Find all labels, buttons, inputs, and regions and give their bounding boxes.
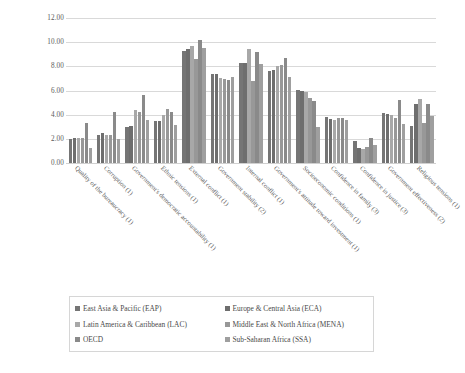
legend-label: OECD	[83, 335, 103, 344]
bar	[186, 49, 189, 163]
bar	[97, 135, 100, 163]
bar	[223, 79, 226, 163]
legend-label: Sub-Saharan Africa (SSA)	[233, 335, 311, 344]
bar	[422, 123, 425, 163]
bar	[329, 119, 332, 163]
legend-swatch-icon	[75, 306, 80, 311]
legend-swatch-icon	[225, 322, 230, 327]
legend-label: East Asia & Pacific (EAP)	[83, 304, 161, 313]
bar	[333, 120, 336, 164]
bar	[101, 133, 104, 163]
bar-group	[294, 18, 322, 163]
bar	[251, 81, 254, 163]
y-tick-label: 8.00	[30, 62, 64, 70]
bar	[341, 118, 344, 163]
bar	[426, 104, 429, 163]
bar	[113, 112, 116, 163]
bar	[231, 77, 234, 163]
bar	[239, 63, 242, 163]
bar-group	[322, 18, 350, 163]
bar	[272, 70, 275, 163]
bar	[146, 120, 149, 163]
legend-swatch-icon	[225, 306, 230, 311]
bar	[117, 139, 120, 163]
bar	[300, 91, 303, 164]
bar	[284, 58, 287, 163]
legend-item[interactable]: East Asia & Pacific (EAP)	[75, 304, 222, 313]
legend-item[interactable]: Europe & Central Asia (ECA)	[222, 304, 369, 313]
bar	[361, 149, 364, 163]
bar	[365, 147, 368, 163]
bar	[202, 48, 205, 163]
bar	[357, 148, 360, 163]
bar	[288, 77, 291, 163]
bar	[353, 141, 356, 163]
bar	[227, 80, 230, 163]
bar	[243, 63, 246, 163]
bar-group	[123, 18, 151, 163]
legend-row: OECDSub-Saharan Africa (SSA)	[75, 332, 368, 348]
y-tick-label: 10.00	[30, 38, 64, 46]
legend-row: East Asia & Pacific (EAP)Europe & Centra…	[75, 301, 368, 317]
bar	[134, 110, 137, 163]
bar	[280, 65, 283, 163]
bar	[304, 92, 307, 163]
legend-item[interactable]: Latin America & Caribbean (LAC)	[75, 320, 222, 329]
bar	[386, 114, 389, 163]
bar-group	[265, 18, 293, 163]
bar-group	[379, 18, 407, 163]
bar-group	[151, 18, 179, 163]
bar	[373, 145, 376, 163]
legend-item[interactable]: Sub-Saharan Africa (SSA)	[222, 335, 369, 344]
bar	[296, 90, 299, 163]
bar	[154, 121, 157, 163]
bar-group	[237, 18, 265, 163]
y-tick-label: 2.00	[30, 135, 64, 143]
bar	[430, 116, 433, 163]
y-tick-label: 12.00	[30, 14, 64, 22]
legend-label: Europe & Central Asia (ECA)	[233, 304, 322, 313]
bar	[255, 52, 258, 163]
legend-row: Latin America & Caribbean (LAC)Middle Ea…	[75, 317, 368, 333]
bar	[85, 123, 88, 163]
legend-swatch-icon	[75, 322, 80, 327]
plot-area	[66, 18, 436, 163]
bar	[394, 118, 397, 163]
y-axis: 12.0010.008.006.004.002.000.00	[30, 0, 64, 175]
bar	[382, 113, 385, 163]
bar	[158, 121, 161, 163]
bar	[182, 51, 185, 163]
bar	[166, 109, 169, 163]
bar-group	[351, 18, 379, 163]
bar	[268, 71, 271, 163]
bar	[198, 40, 201, 163]
bar	[142, 95, 145, 163]
bar	[337, 118, 340, 163]
bar	[81, 138, 84, 163]
bar-group	[408, 18, 436, 163]
legend-swatch-icon	[225, 337, 230, 342]
bar	[73, 138, 76, 163]
bar	[109, 135, 112, 163]
bar	[390, 115, 393, 163]
bar	[129, 126, 132, 163]
bar	[402, 124, 405, 163]
bar	[89, 148, 92, 163]
bar	[77, 138, 80, 163]
bar	[215, 74, 218, 163]
bar	[138, 112, 141, 163]
legend-item[interactable]: OECD	[75, 335, 222, 344]
bar	[308, 98, 311, 163]
bar-group	[94, 18, 122, 163]
bar	[69, 139, 72, 163]
chart-legend: East Asia & Pacific (EAP)Europe & Centra…	[69, 296, 374, 352]
legend-swatch-icon	[75, 337, 80, 342]
bar	[398, 100, 401, 163]
bar	[174, 125, 177, 163]
bar	[125, 127, 128, 163]
bar	[194, 59, 197, 163]
bar	[414, 104, 417, 163]
bar	[211, 74, 214, 163]
bar	[316, 127, 319, 163]
legend-item[interactable]: Middle East & North Africa (MENA)	[222, 320, 369, 329]
